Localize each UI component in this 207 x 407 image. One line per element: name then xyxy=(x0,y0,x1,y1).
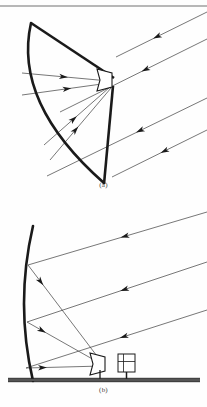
panel-b-incident-ray-2-line xyxy=(27,262,207,322)
panel-a-incident-ray-2-arrowhead xyxy=(140,65,150,74)
panel-b-incident-ray-1-line xyxy=(28,212,207,265)
panel-b-ground-mounted-reflector xyxy=(8,212,207,382)
panel-a-reflected-ray-3-line xyxy=(44,87,110,145)
panel-b-reflected-ray-3-line xyxy=(26,366,102,368)
equipment-module-body xyxy=(118,354,135,372)
panel-a-incident-ray-2 xyxy=(60,39,207,112)
panel-a-incident-ray-1-line xyxy=(116,12,207,57)
panel-a-incident-ray-1 xyxy=(116,12,207,57)
panel-b-ground-feed-horn-horn-body xyxy=(90,353,105,375)
panel-a-incident-ray-2-line xyxy=(60,39,207,112)
caption-panel-a: (a) xyxy=(0,181,207,189)
panel-b-reflected-ray-1-line xyxy=(28,265,103,364)
panel-b-incident-ray-1-arrowhead xyxy=(120,232,130,240)
panel-b-incident-ray-2-arrowhead xyxy=(119,286,129,294)
panel-b-reflected-ray-1 xyxy=(28,265,103,364)
figure-root: (a) (b) xyxy=(0,0,207,407)
panel-b-ground-feed-horn xyxy=(90,353,105,375)
panel-b-incident-ray-2 xyxy=(27,262,207,322)
panel-a-incident-ray-1-arrowhead xyxy=(152,32,162,41)
panel-a-reflected-ray-1 xyxy=(22,73,109,81)
panel-b-offset-reflector-arc xyxy=(24,226,33,381)
panel-a-incident-ray-3 xyxy=(47,98,207,176)
panel-a-reflected-ray-2-arrowhead xyxy=(62,86,71,93)
panel-b-incident-ray-3 xyxy=(26,310,207,368)
panel-b-incident-ray-3-line xyxy=(26,310,207,368)
panel-a-strut-2-bar xyxy=(104,86,113,184)
panel-b-incident-ray-3-arrowhead xyxy=(119,333,129,341)
panel-a-incident-ray-3-line xyxy=(47,98,207,176)
panel-b-reflected-ray-2-arrowhead xyxy=(37,326,47,335)
panel-b-receiver-equipment-module xyxy=(118,354,135,380)
panel-a-incident-ray-4-arrowhead xyxy=(159,147,169,156)
caption-panel-b: (b) xyxy=(0,386,207,394)
panel-b-incident-ray-1 xyxy=(28,212,207,265)
panel-a-front-fed-reflector xyxy=(22,12,207,184)
panel-b-reflected-ray-1-arrowhead xyxy=(36,277,46,287)
panel-b-reflected-ray-3 xyxy=(26,365,102,371)
panel-a-reflected-ray-3 xyxy=(44,87,110,145)
panel-a-incident-ray-3-arrowhead xyxy=(135,126,145,135)
reflector-antenna-figure xyxy=(0,0,207,407)
panel-b-ground-line xyxy=(8,378,200,381)
panel-a-strut-2 xyxy=(104,86,113,184)
